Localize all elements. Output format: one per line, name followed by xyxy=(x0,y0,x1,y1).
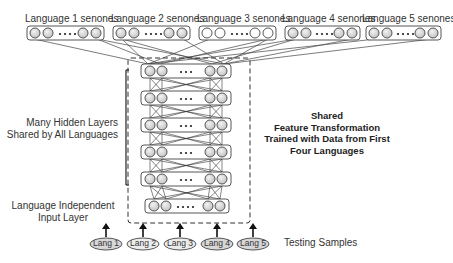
input-label-lang3: Lang 3 xyxy=(164,238,196,248)
input-layer-annotation-line1: Language Independent xyxy=(10,200,116,212)
hidden-layer-3 xyxy=(141,118,231,132)
input-label-lang1: Lang 1 xyxy=(90,238,122,248)
shared-annotation-line2: Feature Transformation xyxy=(252,122,402,134)
hidden-layers-annotation-line1: Many Hidden Layers xyxy=(0,117,118,129)
output-label-3: Language 3 senones xyxy=(197,13,279,24)
output-layer-2 xyxy=(113,26,190,40)
hidden-layer-5 xyxy=(141,172,231,186)
input-label-lang5: Lang 5 xyxy=(237,238,269,248)
shared-annotation-line1: Shared xyxy=(252,110,402,122)
hidden-layer-2 xyxy=(141,91,231,105)
output-layer-boxes xyxy=(27,26,441,40)
shared-transform-annotation: Shared Feature Transformation Trained wi… xyxy=(252,110,402,156)
testing-samples-label: Testing Samples xyxy=(284,237,357,248)
input-arrows xyxy=(102,223,257,237)
output-layer-1 xyxy=(27,26,104,40)
shared-transform-box xyxy=(128,58,250,223)
input-layer xyxy=(145,199,229,213)
output-label-5: Language 5 senones xyxy=(362,13,444,24)
shared-annotation-line4: Four Languages xyxy=(252,145,402,157)
output-label-4: Language 4 senones xyxy=(282,13,364,24)
hidden-layer-4 xyxy=(141,145,231,159)
hidden-layer-1 xyxy=(141,64,231,78)
output-label-2: Language 2 senones xyxy=(111,13,193,24)
output-label-1: Language 1 senones xyxy=(25,13,107,24)
hidden-layers-annotation: Many Hidden Layers Shared by All Languag… xyxy=(0,117,118,141)
shared-annotation-line3: Trained with Data from First xyxy=(252,133,402,145)
input-layer-annotation: Language Independent Input Layer xyxy=(10,200,116,224)
output-connections xyxy=(34,39,432,64)
input-label-lang4: Lang 4 xyxy=(201,238,233,248)
output-layer-5 xyxy=(366,26,441,40)
input-layer-annotation-line2: Input Layer xyxy=(10,212,116,224)
input-label-lang2: Lang 2 xyxy=(127,238,159,248)
output-layer-3 xyxy=(199,26,276,40)
output-layer-4 xyxy=(285,26,360,40)
hidden-layers-annotation-line2: Shared by All Languages xyxy=(0,129,118,141)
